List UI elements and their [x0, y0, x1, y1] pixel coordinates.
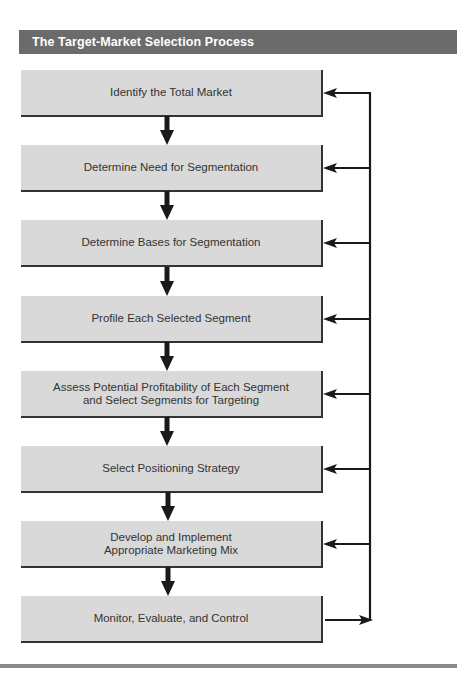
step-box-3: Determine Bases for Segmentation	[21, 220, 323, 267]
down-arrow-icon	[159, 267, 175, 296]
left-arrowhead-icon	[323, 163, 337, 173]
step-box-1: Identify the Total Market	[21, 70, 323, 117]
down-arrow-icon	[159, 191, 175, 220]
down-arrow-icon	[160, 492, 176, 521]
down-arrow-icon	[159, 417, 175, 446]
bottom-rule	[0, 664, 457, 668]
left-arrowhead-icon	[323, 88, 337, 98]
down-arrow-icon	[159, 116, 175, 145]
left-arrowhead-icon	[323, 539, 337, 549]
down-arrow-icon	[160, 567, 176, 596]
diagram-title: The Target-Market Selection Process	[19, 35, 254, 49]
step-box-6: Select Positioning Strategy	[21, 446, 323, 493]
step-box-7: Develop and Implement Appropriate Market…	[21, 521, 323, 568]
title-bar: The Target-Market Selection Process	[19, 30, 457, 54]
left-arrowhead-icon	[323, 314, 337, 324]
left-arrowhead-icon	[323, 238, 337, 248]
right-arrowhead-icon	[359, 615, 373, 625]
step-box-4: Profile Each Selected Segment	[21, 296, 323, 343]
down-arrow-icon	[159, 342, 175, 371]
step-box-5: Assess Potential Profitability of Each S…	[21, 371, 323, 418]
step-box-8: Monitor, Evaluate, and Control	[21, 596, 323, 643]
left-arrowhead-icon	[323, 389, 337, 399]
left-arrowhead-icon	[323, 464, 337, 474]
step-box-2: Determine Need for Segmentation	[21, 145, 323, 192]
